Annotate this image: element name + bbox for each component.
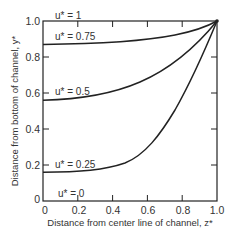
label-u-0.75: u* = 0.75 [55,31,96,42]
x-axis-title: Distance from center line of channel, z* [47,217,213,228]
x-tick-0.8: 0.8 [176,204,191,216]
y-tick-0.8: 0.8 [25,51,40,63]
convergence-point [215,19,219,23]
label-u-1: u* = 1 [55,10,82,21]
label-u-0.25: u* = 0.25 [55,159,96,170]
x-axis-ticks [78,21,182,201]
x-tick-1.0: 1.0 [210,204,225,216]
label-u-0.5: u* = 0.5 [55,86,90,97]
chart: 1.0 0.8 0.6 0.4 0.2 0 0 0.2 0.4 0.6 0.8 … [0,0,236,233]
y-axis-title: Distance from bottom of channel, y* [9,35,20,186]
x-tick-0.2: 0.2 [72,204,87,216]
y-tick-0.4: 0.4 [25,123,40,135]
y-tick-1.0: 1.0 [25,15,40,27]
y-tick-0.6: 0.6 [25,87,40,99]
y-axis-ticks [43,57,217,165]
x-tick-0.6: 0.6 [141,204,156,216]
y-tick-0.2: 0.2 [25,159,40,171]
x-tick-0: 0 [42,204,48,216]
x-tick-0.4: 0.4 [106,204,121,216]
y-tick-0: 0 [34,193,40,205]
label-u-0: u* = 0 [58,188,85,199]
